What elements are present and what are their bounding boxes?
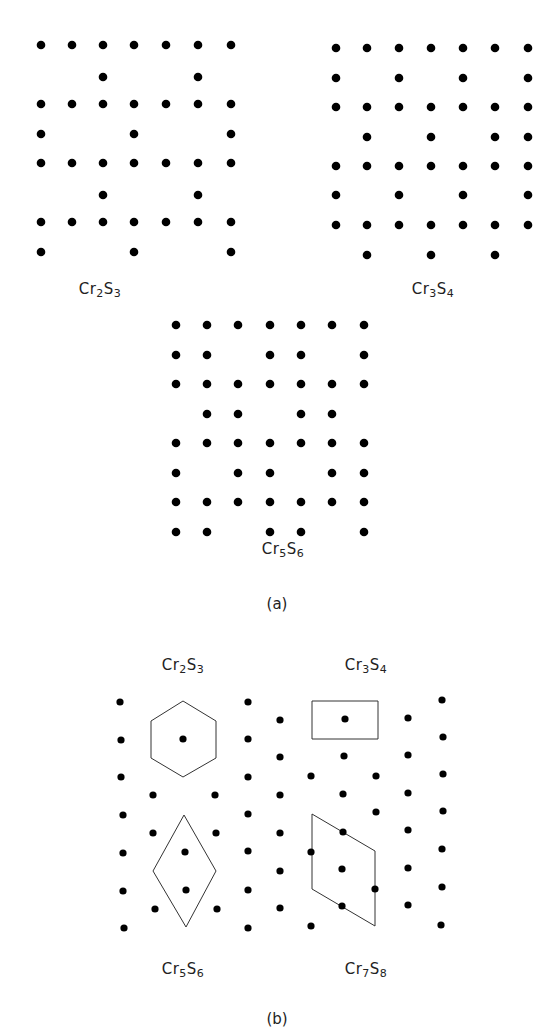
atom-dot	[194, 41, 203, 50]
label-cr2s3-a: Cr2S3	[79, 280, 122, 300]
atom-dot	[117, 773, 124, 780]
atom-dot	[120, 924, 127, 931]
atom-dot	[194, 73, 203, 82]
atom-dot	[203, 528, 212, 537]
subscript: 3	[114, 287, 122, 300]
atom-dot	[363, 221, 372, 230]
atom-dot	[372, 808, 379, 815]
atom-dot	[297, 439, 306, 448]
atom-dot	[172, 439, 181, 448]
atom-dot	[151, 905, 158, 912]
element-s: S	[370, 960, 380, 978]
atom-dot	[68, 41, 77, 50]
atom-dot	[213, 905, 220, 912]
atom-dot	[149, 829, 156, 836]
atom-dot	[172, 469, 181, 478]
atom-dot	[404, 864, 411, 871]
atom-dot	[266, 439, 275, 448]
atom-dot	[68, 218, 77, 227]
atom-dot	[328, 439, 337, 448]
atom-dot	[371, 885, 378, 892]
atom-dot	[130, 218, 139, 227]
atom-dot	[339, 828, 346, 835]
atom-dot	[524, 221, 533, 230]
atom-dot	[276, 829, 283, 836]
atom-dot	[491, 44, 500, 53]
atom-dot	[338, 902, 345, 909]
atom-dot	[404, 714, 411, 721]
atom-dot	[130, 248, 139, 257]
atom-dot	[328, 380, 337, 389]
element-s: S	[287, 540, 297, 558]
atom-dot	[182, 886, 189, 893]
atom-dot	[234, 498, 243, 507]
atom-dot	[227, 248, 236, 257]
atom-dot	[179, 735, 186, 742]
element-cr: Cr	[345, 960, 363, 978]
atom-dot	[203, 380, 212, 389]
atom-dot	[227, 41, 236, 50]
subscript: 4	[380, 663, 388, 676]
atom-dot	[395, 191, 404, 200]
atom-dot	[99, 159, 108, 168]
label-cr3s4-b: Cr3S4	[345, 656, 388, 676]
atom-dot	[37, 218, 46, 227]
atom-dot	[438, 696, 445, 703]
element-s: S	[187, 656, 197, 674]
atom-dot	[99, 191, 108, 200]
atom-dot	[491, 221, 500, 230]
atom-dot	[491, 103, 500, 112]
atom-dot	[427, 162, 436, 171]
atom-dot	[332, 103, 341, 112]
atom-dot	[266, 321, 275, 330]
atom-dot	[116, 698, 123, 705]
rhombus-cr5s6	[153, 815, 216, 927]
atom-dot	[404, 751, 411, 758]
atom-dot	[227, 100, 236, 109]
atom-dot	[68, 159, 77, 168]
atom-dot	[524, 44, 533, 53]
atom-dot	[276, 867, 283, 874]
atom-dot	[203, 351, 212, 360]
atom-dot	[117, 736, 124, 743]
atom-dot	[244, 886, 251, 893]
atom-dot	[524, 103, 533, 112]
atom-dot	[332, 221, 341, 230]
atom-dot	[395, 103, 404, 112]
atom-dot	[395, 44, 404, 53]
atom-dot	[404, 901, 411, 908]
label-cr2s3-b: Cr2S3	[162, 656, 205, 676]
atom-dot	[172, 351, 181, 360]
atom-dot	[119, 811, 126, 818]
element-cr: Cr	[162, 960, 180, 978]
atom-dot	[227, 159, 236, 168]
atom-dot	[438, 845, 445, 852]
atom-dot	[172, 321, 181, 330]
atom-dot	[340, 752, 347, 759]
atom-dot	[234, 469, 243, 478]
atom-dot	[491, 251, 500, 260]
atom-dot	[427, 103, 436, 112]
element-s: S	[437, 280, 447, 298]
atom-dot	[68, 100, 77, 109]
atom-dot	[276, 716, 283, 723]
atom-dot	[276, 753, 283, 760]
atom-dot	[360, 439, 369, 448]
element-s: S	[104, 280, 114, 298]
atom-dot	[332, 162, 341, 171]
atom-dot	[459, 74, 468, 83]
atom-dot	[332, 44, 341, 53]
atom-dot	[307, 848, 314, 855]
element-cr: Cr	[345, 656, 363, 674]
atom-dot	[37, 41, 46, 50]
atom-dot	[328, 410, 337, 419]
atom-dot	[439, 770, 446, 777]
subscript: 8	[380, 967, 388, 980]
atom-dot	[119, 887, 126, 894]
atom-dot	[332, 74, 341, 83]
atom-dot	[524, 191, 533, 200]
atom-dot	[203, 321, 212, 330]
atom-dot	[266, 380, 275, 389]
atom-dot	[203, 498, 212, 507]
atom-dot	[372, 772, 379, 779]
